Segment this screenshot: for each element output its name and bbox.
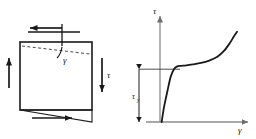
tau-y-label: τ	[132, 92, 136, 101]
tau-y-subscript: y	[136, 97, 140, 103]
element-square-outline	[20, 42, 92, 110]
gamma-angle-arc	[57, 47, 62, 58]
gamma-label: γ	[63, 55, 67, 65]
stress-strain-chart-panel: τ γ τ y	[128, 0, 256, 139]
shear-element-svg: γ τ	[0, 0, 128, 139]
tau-label: τ	[107, 70, 111, 80]
stress-strain-svg: τ γ τ y	[128, 0, 256, 139]
x-axis-label: γ	[238, 125, 242, 135]
figure-root: γ τ	[0, 0, 256, 139]
y-axis-label: τ	[153, 6, 157, 16]
shear-element-panel: γ τ	[0, 0, 128, 139]
shear-stress-strain-curve	[162, 32, 237, 122]
bottom-shear-wedge	[20, 110, 92, 122]
deformed-top-edge-dashed	[22, 46, 90, 54]
